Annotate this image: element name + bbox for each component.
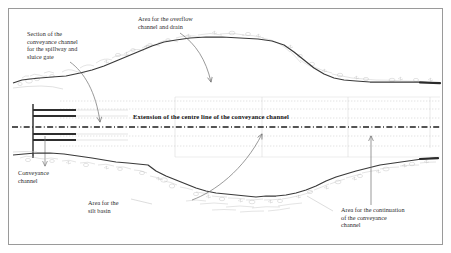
upper-terrain-right-tip <box>420 83 440 84</box>
annotation-conveyance-channel: Conveyance channel <box>18 169 78 184</box>
annotation-area-for-overflow-channel-and-drain: Area for the overflow channel and drain <box>138 15 222 30</box>
annotation-extension-of-centre-line: Extension of the centre line of the conv… <box>133 113 289 121</box>
lower-terrain-right-tip <box>420 158 438 159</box>
annotation-area-for-silt-basin: Area for the silt basin <box>88 199 148 214</box>
annotation-area-for-continuation-of-conveyance-channel: Area for the continuation of the conveya… <box>341 206 433 229</box>
annotation-section-of-conveyance-channel: Section of the conveyance channel for th… <box>27 30 107 60</box>
